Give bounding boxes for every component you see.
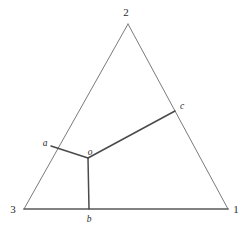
point-label-c: c [180,101,185,111]
triangle-diagram: 1 2 3 a b c o [0,0,251,229]
point-label-o: o [88,147,93,157]
diagram-canvas: 1 2 3 a b c o [0,0,251,229]
vertex-label-1: 1 [233,203,239,215]
triangle-edge-left [24,24,128,209]
vertex-label-2: 2 [123,6,129,18]
interior-segment-o-b [88,158,89,209]
point-label-a: a [43,138,48,148]
vertex-label-3: 3 [10,203,16,215]
triangle-edge-right [128,24,228,209]
interior-segment-o-c [88,111,175,158]
point-label-b: b [87,214,92,224]
